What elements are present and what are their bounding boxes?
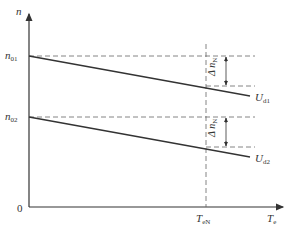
ud2-label: Ud2 — [255, 153, 270, 166]
origin-label: 0 — [17, 203, 23, 214]
y-axis-label: n — [16, 6, 22, 17]
delta-n2-label: Δ nN — [207, 119, 219, 137]
x-axis-label: Te — [267, 213, 276, 226]
delta-n1-label: Δ nN — [207, 58, 219, 76]
ten-label: TeN — [196, 213, 210, 226]
ud1-label: Ud1 — [255, 92, 270, 105]
n02-label: n02 — [5, 111, 18, 124]
speed-torque-diagram — [0, 0, 288, 235]
n01-label: n01 — [5, 50, 18, 63]
